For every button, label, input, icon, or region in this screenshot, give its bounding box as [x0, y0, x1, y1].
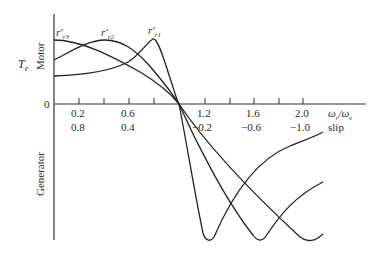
curve-label-r1: r′r1: [148, 24, 161, 41]
curve-r1: [54, 39, 323, 240]
te-label: Te: [18, 58, 28, 75]
curve-label-r2: r′r2: [101, 26, 114, 43]
tick-label-0.2: 0.2: [71, 107, 85, 119]
motor-label: Motor: [34, 43, 46, 71]
slip-label-neg0.6: −0.6: [241, 121, 261, 133]
zero-label: 0: [44, 98, 50, 110]
tick-label-1.2: 1.2: [197, 107, 211, 119]
tick-label-2.0: 2.0: [295, 107, 309, 119]
slip-label-neg0.2: −0.2: [192, 121, 212, 133]
curve-label-r3: r′r3: [56, 26, 69, 43]
slip-label-0.4: 0.4: [121, 121, 135, 133]
x-ticks: [79, 98, 303, 104]
slip-label-neg1.0: −1.0: [290, 121, 310, 133]
x-axis-label-slip: slip: [328, 121, 344, 133]
tick-label-0.6: 0.6: [121, 107, 135, 119]
generator-label: Generator: [34, 152, 46, 196]
curve-r3: [54, 40, 323, 241]
slip-label-0.8: 0.8: [71, 121, 85, 133]
tick-label-1.6: 1.6: [246, 107, 260, 119]
curve-r2: [54, 40, 323, 240]
